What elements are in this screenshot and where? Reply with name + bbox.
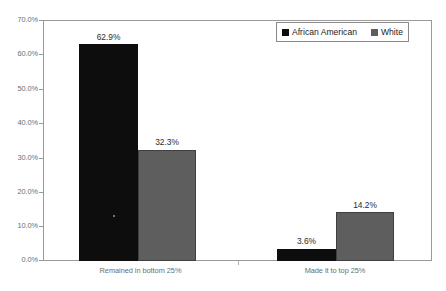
legend: African American White bbox=[276, 22, 409, 42]
bar-value-label-white-remained-bottom: 32.3% bbox=[138, 137, 196, 147]
bars-layer: 62.9% 32.3% 3.6% 14.2% bbox=[43, 20, 432, 261]
legend-swatch-african-american-icon bbox=[282, 29, 289, 36]
legend-swatch-white-icon bbox=[371, 29, 378, 36]
bar-african-american-remained-bottom[interactable] bbox=[79, 44, 138, 261]
x-axis-center-tick bbox=[238, 261, 239, 265]
y-axis: 70.0% 60.0% 50.0% 40.0% 30.0% 20.0% 10.0… bbox=[0, 20, 38, 261]
x-axis: Remained in bottom 25% Made it to top 25… bbox=[43, 266, 432, 282]
y-tick-label-40: 40.0% bbox=[0, 119, 38, 127]
legend-item-white[interactable]: White bbox=[371, 27, 403, 37]
y-tick-label-60: 60.0% bbox=[0, 50, 38, 58]
x-tick-label-remained-bottom: Remained in bottom 25% bbox=[43, 266, 238, 276]
y-tick-label-10: 10.0% bbox=[0, 222, 38, 230]
y-tick-label-20: 20.0% bbox=[0, 188, 38, 196]
speck-artifact bbox=[113, 215, 115, 217]
y-tick-label-70: 70.0% bbox=[0, 16, 38, 24]
y-tick-label-50: 50.0% bbox=[0, 85, 38, 93]
bar-chart: 70.0% 60.0% 50.0% 40.0% 30.0% 20.0% 10.0… bbox=[0, 0, 446, 291]
legend-label-white: White bbox=[381, 27, 403, 37]
x-tick-label-made-top: Made it to top 25% bbox=[238, 266, 432, 276]
y-tick-label-30: 30.0% bbox=[0, 154, 38, 162]
legend-label-african-american: African American bbox=[292, 27, 357, 37]
bar-african-american-top[interactable] bbox=[277, 249, 336, 261]
bar-white-top[interactable] bbox=[336, 212, 394, 261]
bar-value-label-white-top: 14.2% bbox=[336, 200, 394, 210]
y-tick-label-0: 0.0% bbox=[0, 256, 38, 264]
bar-value-label-african-american-top: 3.6% bbox=[277, 236, 336, 246]
legend-item-african-american[interactable]: African American bbox=[282, 27, 357, 37]
bar-value-label-african-american-remained-bottom: 62.9% bbox=[79, 32, 138, 42]
bar-white-remained-bottom[interactable] bbox=[138, 150, 196, 261]
